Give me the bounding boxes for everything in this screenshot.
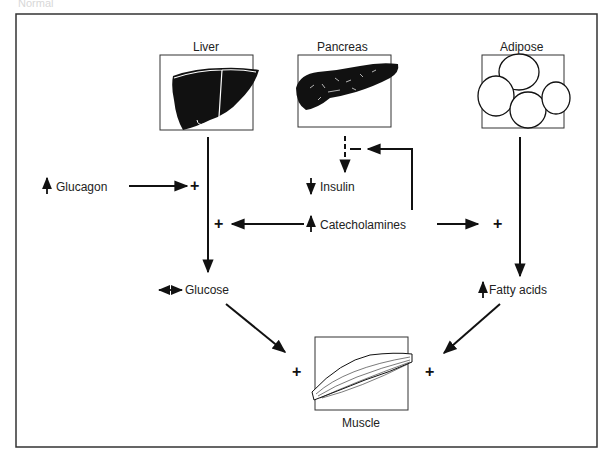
- muscle-label: Muscle: [342, 416, 380, 430]
- fatty-acids-label: Fatty acids: [489, 283, 547, 297]
- glucagon-stimulate-sign: +: [190, 178, 199, 194]
- pancreas-icon: [296, 55, 398, 127]
- glucagon-label: Glucagon: [56, 180, 107, 194]
- adipose-cells-icon: [478, 54, 570, 128]
- pancreas-label: Pancreas: [317, 40, 368, 54]
- catecholamines-label: Catecholamines: [320, 218, 406, 232]
- liver-label: Liver: [193, 40, 219, 54]
- muscle-icon: [312, 337, 412, 410]
- catecholamines-liver-stimulate-sign: +: [214, 216, 223, 232]
- insulin-label: Insulin: [320, 180, 355, 194]
- diagram-canvas: [0, 0, 613, 461]
- fatty-acids-muscle-stimulate-sign: +: [425, 364, 434, 380]
- adipose-label: Adipose: [500, 40, 543, 54]
- liver-icon: [160, 55, 259, 130]
- glucose-label: Glucose: [185, 283, 229, 297]
- glucose-muscle-stimulate-sign: +: [292, 364, 301, 380]
- catecholamines-adipose-stimulate-sign: +: [493, 216, 502, 232]
